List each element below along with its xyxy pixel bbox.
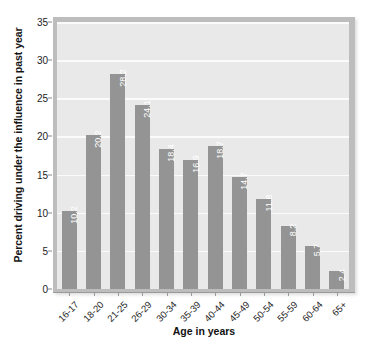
bar[interactable]: 24.1 [135, 105, 150, 289]
y-tick-mark [48, 212, 52, 213]
x-tick-label: 26-29 [129, 299, 154, 324]
y-tick-label: 5 [32, 245, 48, 256]
x-tick-label: 65+ [329, 299, 348, 318]
x-axis-title: Age in years [53, 325, 355, 337]
bar[interactable]: 8.2 [281, 226, 296, 289]
x-tick-label: 21-25 [105, 299, 130, 324]
x-tick-mark [118, 292, 119, 296]
plot-area: 10.220.228.224.118.416.918.714.711.88.25… [57, 22, 349, 289]
x-tick-mark [313, 292, 314, 296]
y-tick-label: 25 [32, 93, 48, 104]
bar[interactable]: 5.7 [305, 246, 320, 289]
x-tick-mark [142, 292, 143, 296]
x-tick-mark [240, 292, 241, 296]
bar-value-label: 18.4 [166, 144, 176, 162]
x-axis-tick-labels: 16-1718-2021-2526-2930-3435-3940-4445-49… [57, 297, 349, 327]
x-tick-mark [288, 292, 289, 296]
bar[interactable]: 28.2 [110, 74, 125, 289]
bar-value-label: 18.7 [215, 142, 225, 160]
y-tick-label: 20 [32, 131, 48, 142]
y-tick-label: 30 [32, 55, 48, 66]
bar-chart-figure: Percent driving under the influence in p… [0, 0, 366, 344]
bar-value-label: 14.7 [239, 172, 249, 190]
bars-layer: 10.220.228.224.118.416.918.714.711.88.25… [57, 22, 349, 289]
y-tick-label: 35 [32, 17, 48, 28]
bar-value-label: 11.8 [264, 195, 274, 212]
bar[interactable]: 11.8 [256, 199, 271, 289]
bar[interactable]: 20.2 [86, 135, 101, 289]
y-axis-title-text: Percent driving under the influence in p… [12, 27, 24, 262]
bar-value-label: 28.2 [118, 69, 128, 87]
x-tick-mark [191, 292, 192, 296]
bar[interactable]: 18.7 [208, 146, 223, 289]
bar-value-label: 20.2 [93, 130, 103, 148]
y-tick-mark [48, 174, 52, 175]
x-tick-label: 16-17 [56, 299, 81, 324]
y-tick-mark [48, 250, 52, 251]
x-tick-label: 55-59 [275, 299, 300, 324]
x-tick-mark [215, 292, 216, 296]
y-tick-mark [48, 98, 52, 99]
x-tick-label: 50-54 [251, 299, 276, 324]
x-tick-label: 18-20 [80, 299, 105, 324]
y-tick-mark [48, 289, 52, 290]
x-tick-mark [337, 292, 338, 296]
y-tick-mark [48, 136, 52, 137]
x-tick-label: 40-44 [202, 299, 227, 324]
plot-frame: 10.220.228.224.118.416.918.714.711.88.25… [53, 17, 355, 293]
bar[interactable]: 16.9 [183, 160, 198, 289]
bar-value-label: 16.9 [191, 155, 201, 173]
bar[interactable]: 10.2 [62, 211, 77, 289]
bar[interactable]: 2.4 [329, 271, 344, 289]
bar-value-label: 10.2 [69, 206, 79, 224]
x-tick-label: 35-39 [178, 299, 203, 324]
x-tick-mark [167, 292, 168, 296]
bar-value-label: 2.4 [337, 268, 347, 281]
y-axis-tick-labels: 05101520253035 [26, 17, 48, 293]
x-tick-mark [94, 292, 95, 296]
bar[interactable]: 14.7 [232, 177, 247, 289]
bar-value-label: 5.7 [312, 243, 322, 256]
y-tick-mark [48, 22, 52, 23]
y-tick-label: 0 [32, 284, 48, 295]
y-tick-mark [48, 60, 52, 61]
y-axis-title: Percent driving under the influence in p… [8, 0, 28, 290]
x-tick-mark [69, 292, 70, 296]
x-tick-label: 60-64 [299, 299, 324, 324]
y-tick-label: 15 [32, 169, 48, 180]
bar-value-label: 24.1 [142, 100, 152, 118]
x-tick-mark [264, 292, 265, 296]
bar-value-label: 8.2 [288, 224, 298, 237]
x-tick-label: 45-49 [226, 299, 251, 324]
y-tick-label: 10 [32, 207, 48, 218]
bar[interactable]: 18.4 [159, 149, 174, 289]
x-tick-label: 30-34 [153, 299, 178, 324]
